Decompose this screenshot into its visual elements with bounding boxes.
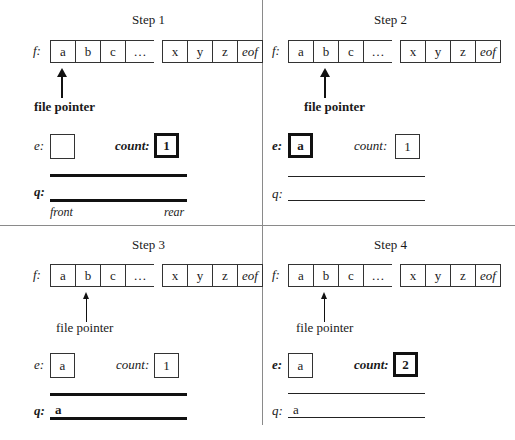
step-4-panel: Step 4 f: a b c … x y z eof file pointer… <box>262 226 515 440</box>
step-1-panel: Step 1 f: a b c … x y z eof file pointer… <box>0 0 257 220</box>
file-label: f: <box>33 43 41 59</box>
tape-cell: b <box>313 264 338 287</box>
file-tape: a b c … x y z eof <box>50 40 263 63</box>
element-box: a <box>50 353 75 378</box>
tape-cell: c <box>338 264 363 287</box>
file-tape: a b c … x y z eof <box>288 40 501 63</box>
queue-top-line <box>288 176 425 177</box>
tape-cell: y <box>187 40 212 63</box>
tape-ellipsis: … <box>125 40 154 63</box>
element-label: e: <box>34 357 44 373</box>
tape-cell: c <box>100 264 125 287</box>
tape-cell: x <box>162 40 187 63</box>
tape-cell: x <box>400 40 425 63</box>
tape-cell: b <box>75 40 100 63</box>
tape-cell: b <box>313 40 338 63</box>
tape-cell-eof: eof <box>475 40 501 63</box>
tape-cell: b <box>75 264 100 287</box>
count-label: count: <box>115 138 150 154</box>
queue-label: q: <box>34 403 45 419</box>
count-box: 1 <box>154 133 179 158</box>
tape-cell: c <box>100 40 125 63</box>
count-label: count: <box>354 138 387 154</box>
tape-cell: a <box>50 264 75 287</box>
tape-cell-eof: eof <box>475 264 501 287</box>
file-tape: a b c … x y z eof <box>50 264 263 287</box>
queue-bottom-line <box>288 200 425 201</box>
file-tape: a b c … x y z eof <box>288 264 501 287</box>
queue-bottom-line <box>288 417 425 418</box>
front-label: front <box>50 205 73 220</box>
step-2-panel: Step 2 f: a b c … x y z eof file pointer… <box>262 0 515 220</box>
count-label: count: <box>354 357 389 373</box>
queue-label: q: <box>272 403 283 419</box>
tape-ellipsis: … <box>125 264 154 287</box>
queue-label: q: <box>34 184 45 200</box>
tape-cell: y <box>187 264 212 287</box>
tape-cell: a <box>288 40 313 63</box>
count-box: 1 <box>395 134 420 159</box>
queue-bottom-line <box>50 199 187 202</box>
file-pointer-label: file pointer <box>56 320 113 336</box>
count-box: 2 <box>393 352 418 377</box>
queue-content: a <box>293 402 299 418</box>
queue-label: q: <box>272 186 283 202</box>
file-label: f: <box>33 267 41 283</box>
tape-cell-eof: eof <box>237 40 263 63</box>
tape-cell: c <box>338 40 363 63</box>
queue-top-line <box>50 174 187 177</box>
element-box: a <box>288 353 313 378</box>
file-pointer-label: file pointer <box>296 320 353 336</box>
tape-ellipsis: … <box>363 264 392 287</box>
step-title: Step 4 <box>262 237 515 253</box>
tape-cell: y <box>425 264 450 287</box>
file-label: f: <box>272 43 280 59</box>
step-title: Step 1 <box>20 12 277 28</box>
tape-cell: x <box>400 264 425 287</box>
tape-cell: z <box>450 264 475 287</box>
step-3-panel: Step 3 f: a b c … x y z eof file pointer… <box>0 226 257 440</box>
tape-ellipsis: … <box>363 40 392 63</box>
tape-cell: a <box>288 264 313 287</box>
step-title: Step 2 <box>262 12 515 28</box>
file-pointer-label: file pointer <box>34 99 95 115</box>
tape-cell: z <box>212 264 237 287</box>
queue-top-line <box>50 393 187 396</box>
tape-cell: y <box>425 40 450 63</box>
tape-cell: x <box>162 264 187 287</box>
queue-top-line <box>288 393 425 394</box>
file-label: f: <box>272 267 280 283</box>
element-box: a <box>288 133 313 158</box>
element-label: e: <box>272 138 282 154</box>
rear-label: rear <box>164 205 184 220</box>
count-label: count: <box>116 357 149 373</box>
tape-cell: z <box>450 40 475 63</box>
count-box: 1 <box>154 353 179 378</box>
queue-content: a <box>55 402 62 418</box>
file-pointer-label: file pointer <box>304 99 365 115</box>
step-title: Step 3 <box>20 237 277 253</box>
queue-bottom-line <box>50 417 187 420</box>
element-label: e: <box>34 138 44 154</box>
element-box <box>50 134 75 159</box>
tape-cell: a <box>50 40 75 63</box>
tape-cell: z <box>212 40 237 63</box>
tape-cell-eof: eof <box>237 264 263 287</box>
element-label: e: <box>272 357 282 373</box>
